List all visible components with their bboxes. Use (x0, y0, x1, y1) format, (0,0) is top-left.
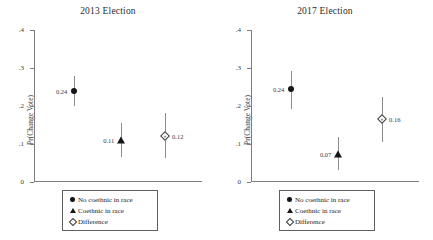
y-tick-label-0: 0 (21, 178, 25, 186)
x-axis-line (251, 181, 419, 182)
point-value-label: 0.24 (273, 85, 284, 92)
y-tick-2: .2 (30, 106, 34, 107)
y-tick-3: .3 (247, 68, 251, 69)
marker-filled-circle (288, 86, 294, 92)
y-tick-3: .3 (30, 68, 34, 69)
y-tick-label-0: 0 (238, 178, 242, 186)
y-tick-label-1: .1 (236, 140, 241, 148)
point-value-label: 0.12 (172, 133, 183, 140)
y-tick-4: .4 (247, 30, 251, 31)
y-tick-0: 0 (30, 182, 34, 183)
y-tick-label-2: .2 (19, 102, 24, 110)
y-tick-label-1: .1 (19, 140, 24, 148)
panel-2013-election: 2013 Election Pr(Change Vote) .4 .3 .2 .… (0, 0, 216, 240)
legend-label: No coethnic in race (295, 196, 350, 204)
legend-item-no-coethnic: No coethnic in race (67, 194, 152, 205)
open-diamond-icon (67, 219, 78, 225)
y-tick-label-4: .4 (19, 26, 24, 34)
panel-title: 2017 Election (217, 6, 433, 16)
point-value-label: 0.16 (389, 116, 400, 123)
y-axis-line (251, 30, 252, 182)
x-axis-line (34, 181, 202, 182)
panel-title: 2013 Election (0, 6, 216, 16)
legend: No coethnic in race Coethnic in race Dif… (62, 190, 158, 231)
filled-circle-icon (284, 197, 295, 202)
legend-label: Coethnic in race (295, 207, 341, 215)
y-tick-label-2: .2 (236, 102, 241, 110)
legend-item-coethnic: Coethnic in race (67, 205, 152, 216)
y-tick-1: .1 (30, 144, 34, 145)
legend-item-difference: Difference (67, 216, 152, 227)
legend-label: Difference (295, 218, 325, 226)
panel-2017-election: 2017 Election Pr(Change Vote) .4 .3 .2 .… (217, 0, 433, 240)
y-tick-label-3: .3 (236, 64, 241, 72)
legend-item-difference: Difference (284, 216, 369, 227)
open-diamond-icon (284, 219, 295, 225)
point-value-label: 0.24 (56, 87, 67, 94)
marker-filled-circle (71, 88, 77, 94)
legend: No coethnic in race Coethnic in race Dif… (279, 190, 375, 231)
legend-label: No coethnic in race (78, 196, 133, 204)
marker-open-diamond (160, 131, 170, 141)
legend-item-coethnic: Coethnic in race (284, 205, 369, 216)
marker-open-diamond (377, 114, 387, 124)
filled-circle-icon (67, 197, 78, 202)
y-tick-label-3: .3 (19, 64, 24, 72)
y-tick-2: .2 (247, 106, 251, 107)
figure: 2013 Election Pr(Change Vote) .4 .3 .2 .… (0, 0, 433, 240)
legend-label: Difference (78, 218, 108, 226)
filled-triangle-icon (284, 208, 295, 213)
y-tick-4: .4 (30, 30, 34, 31)
point-value-label: 0.07 (320, 150, 331, 157)
y-tick-0: 0 (247, 182, 251, 183)
plot-area: .4 .3 .2 .1 0 0.24 0.07 (251, 30, 419, 182)
marker-filled-triangle (117, 137, 125, 144)
y-tick-1: .1 (247, 144, 251, 145)
plot-area: .4 .3 .2 .1 0 0.24 0.11 (34, 30, 202, 182)
filled-triangle-icon (67, 208, 78, 213)
point-value-label: 0.11 (103, 137, 114, 144)
legend-label: Coethnic in race (78, 207, 124, 215)
y-axis-line (34, 30, 35, 182)
y-tick-label-4: .4 (236, 26, 241, 34)
legend-item-no-coethnic: No coethnic in race (284, 194, 369, 205)
marker-filled-triangle (334, 150, 342, 157)
